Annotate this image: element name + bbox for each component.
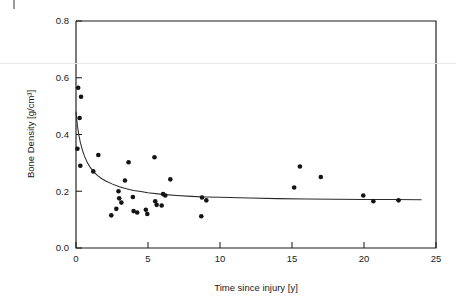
fitted-decay-curve (76, 112, 422, 200)
data-point (135, 210, 140, 215)
data-point (292, 185, 297, 190)
y-tick-label: 0.4 (56, 129, 69, 140)
data-point (78, 163, 83, 168)
data-point (168, 177, 173, 182)
x-tick-label: 10 (215, 253, 226, 264)
data-point (200, 195, 205, 200)
y-tick-label: 0.0 (56, 242, 69, 253)
x-tick-label: 15 (287, 253, 298, 264)
data-point (76, 85, 81, 90)
data-point (159, 203, 164, 208)
data-point (123, 178, 128, 183)
data-point (163, 193, 168, 198)
data-point (145, 212, 150, 217)
plot-frame (76, 21, 436, 248)
x-tick-label: 20 (359, 253, 370, 264)
data-point (204, 198, 209, 203)
data-point (319, 175, 324, 180)
y-axis-title: Bone Density [g/cm³] (25, 90, 36, 178)
x-tick-label: 5 (145, 253, 150, 264)
data-point (114, 207, 119, 212)
x-tick-label: 25 (431, 253, 442, 264)
data-point (79, 94, 84, 99)
data-point (131, 195, 136, 200)
bone-density-scatter-figure: 0.00.20.40.60.8 0510152025 Time since in… (0, 0, 456, 308)
y-tick-label: 0.6 (56, 72, 69, 83)
data-point (109, 213, 114, 218)
data-point (152, 155, 157, 160)
data-point (361, 193, 366, 198)
y-tick-label: 0.8 (56, 15, 69, 26)
data-point (298, 164, 303, 169)
frame-border (76, 21, 436, 248)
x-tick-label: 0 (73, 253, 78, 264)
x-axis-ticks: 0510152025 (73, 242, 441, 264)
y-axis-ticks: 0.00.20.40.60.8 (56, 15, 82, 253)
data-point (96, 153, 101, 158)
data-point (75, 146, 80, 151)
data-point (144, 207, 149, 212)
data-point (119, 200, 124, 205)
data-point (126, 160, 131, 165)
scan-line-artifact (0, 63, 456, 64)
data-point (77, 116, 82, 121)
page-edge-artifact (13, 0, 15, 9)
data-point-group (75, 85, 401, 218)
data-point (154, 203, 159, 208)
y-tick-label: 0.2 (56, 186, 69, 197)
data-point (91, 169, 96, 174)
data-point (116, 189, 121, 194)
data-point (117, 196, 122, 201)
x-axis-title: Time since injury [y] (214, 282, 298, 293)
data-point (199, 214, 204, 219)
data-point (371, 199, 376, 204)
plot-canvas: 0.00.20.40.60.8 0510152025 Time since in… (0, 0, 456, 308)
data-point (396, 198, 401, 203)
